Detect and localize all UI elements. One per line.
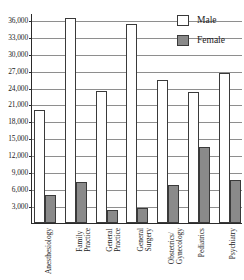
- x-axis-category-line: Psychiatry: [229, 228, 237, 259]
- legend-item-male: Male: [155, 10, 241, 30]
- x-axis-category: Anesthesiology: [33, 228, 57, 280]
- y-axis-tick-label: 3,000: [12, 203, 28, 211]
- x-axis-category-label: GeneralSurgery: [137, 228, 153, 251]
- x-axis-category-line: Practice: [84, 228, 92, 252]
- legend-swatch-female-icon: [177, 35, 189, 46]
- x-axis-category: Obstetrics/Gynecology: [156, 228, 180, 280]
- bar-female: [107, 210, 118, 223]
- bar-male: [65, 18, 76, 223]
- bar-male: [219, 73, 230, 223]
- bar-male: [188, 92, 199, 223]
- bar-group: [96, 14, 118, 223]
- bar-chart: 3,0006,0009,00012,00015,00018,00021,0002…: [0, 0, 244, 280]
- legend-label-female: Female: [197, 35, 225, 45]
- y-axis-tick-label: 12,000: [8, 152, 28, 160]
- bar-female: [230, 180, 241, 223]
- bar-group: [126, 14, 148, 223]
- legend-label-male: Male: [197, 15, 217, 25]
- x-axis-category-line: Anesthesiology: [45, 228, 53, 274]
- legend-item-female: Female: [155, 30, 241, 50]
- x-axis-category: Psychiatry: [217, 228, 241, 280]
- bar-male: [126, 24, 137, 223]
- y-axis-tick-label: 15,000: [8, 135, 28, 143]
- x-axis-category-line: Practice: [115, 228, 123, 252]
- y-axis-tick-label: 6,000: [12, 186, 28, 194]
- x-axis-category: GeneralPractice: [94, 228, 118, 280]
- x-axis-category: FamilyPractice: [64, 228, 88, 280]
- bar-female: [168, 185, 179, 223]
- bar-female: [199, 147, 210, 223]
- bar-female: [45, 195, 56, 223]
- bar-group: [34, 14, 56, 223]
- bar-male: [96, 91, 107, 223]
- y-axis-tick-label: 21,000: [8, 101, 28, 109]
- y-axis-tick-label: 18,000: [8, 118, 28, 126]
- bar-male: [34, 110, 45, 223]
- y-axis-tick-label: 33,000: [8, 34, 28, 42]
- x-axis-category-line: Pediatrics: [198, 228, 206, 257]
- chart-title: [0, 0, 244, 1]
- x-axis-category-line: Surgery: [145, 228, 153, 251]
- bar-female: [137, 208, 148, 223]
- y-axis-tick-label: 30,000: [8, 51, 28, 59]
- x-axis: AnesthesiologyFamilyPracticeGeneralPract…: [31, 228, 242, 280]
- y-axis: 3,0006,0009,00012,00015,00018,00021,0002…: [0, 0, 31, 228]
- x-axis-category: GeneralSurgery: [125, 228, 149, 280]
- bar-female: [76, 182, 87, 223]
- bar-group: [65, 14, 87, 223]
- y-axis-tick-label: 36,000: [8, 17, 28, 25]
- x-axis-category-label: Pediatrics: [198, 228, 206, 257]
- y-axis-tick-label: 27,000: [8, 68, 28, 76]
- legend-swatch-male-icon: [177, 15, 189, 26]
- x-axis-category-label: Obstetrics/Gynecology: [168, 228, 184, 264]
- y-axis-tick-label: 9,000: [12, 169, 28, 177]
- y-axis-tick-label: 24,000: [8, 85, 28, 93]
- x-axis-category-label: FamilyPractice: [76, 228, 92, 252]
- bar-male: [157, 80, 168, 223]
- x-axis-category-label: Psychiatry: [229, 228, 237, 259]
- x-axis-category: Pediatrics: [186, 228, 210, 280]
- x-axis-category-line: Gynecology: [176, 228, 184, 264]
- legend: Male Female: [155, 10, 241, 50]
- x-axis-category-label: Anesthesiology: [45, 228, 53, 274]
- x-axis-category-label: GeneralPractice: [106, 228, 122, 252]
